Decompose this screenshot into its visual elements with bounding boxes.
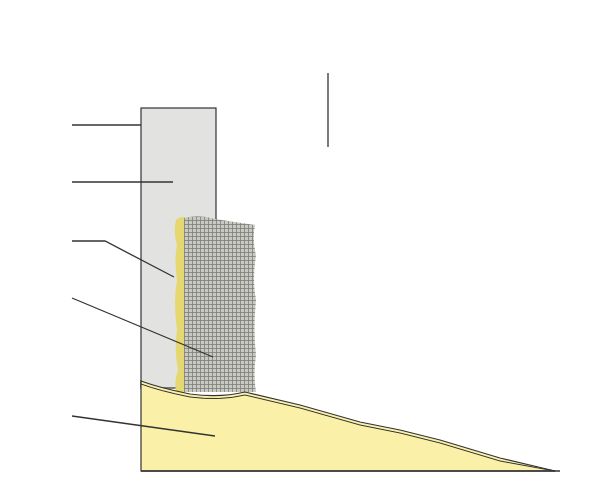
mesh-layer <box>184 216 256 392</box>
diagram-stage <box>0 0 603 501</box>
wall-section-diagram <box>0 0 603 501</box>
brick-fade <box>470 100 580 480</box>
